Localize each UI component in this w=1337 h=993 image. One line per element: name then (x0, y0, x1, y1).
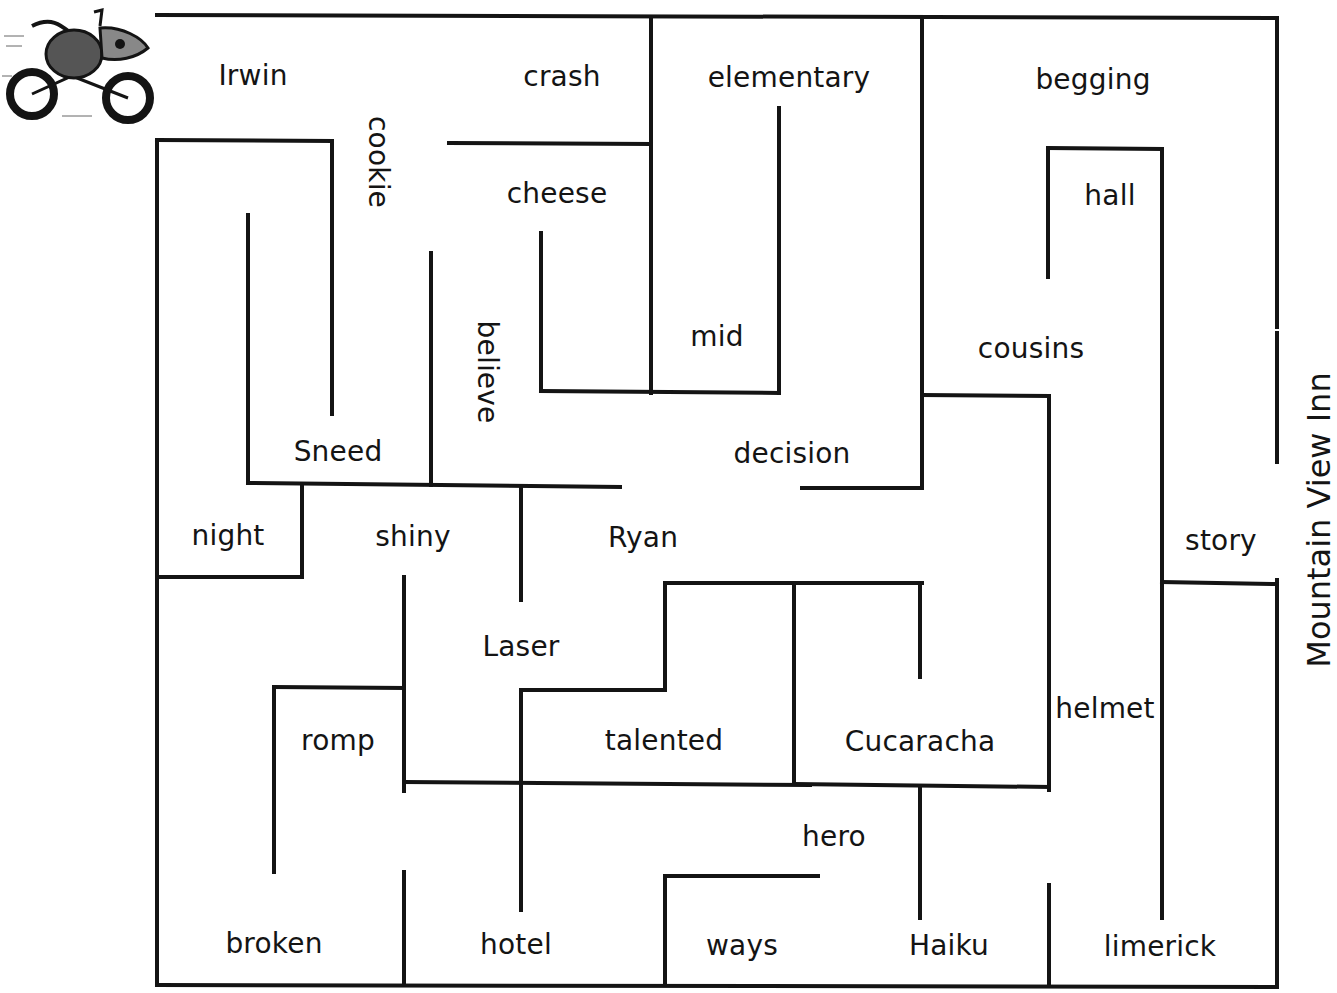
maze-wall (449, 143, 651, 144)
maze-word[interactable]: decision (733, 440, 850, 468)
maze-wall (541, 391, 779, 393)
maze-wall (922, 395, 1049, 396)
maze-wall (157, 140, 332, 141)
maze-word[interactable]: helmet (1055, 695, 1154, 723)
maze-word[interactable]: mid (690, 323, 743, 351)
maze-word[interactable]: Sneed (294, 438, 383, 466)
maze-word[interactable]: broken (225, 930, 322, 958)
maze-word[interactable]: Cucaracha (845, 728, 996, 756)
maze-word[interactable]: cousins (978, 335, 1084, 363)
maze-walls (0, 0, 1337, 993)
maze-word[interactable]: Irwin (218, 62, 287, 90)
maze-wall (1162, 582, 1277, 584)
maze-word[interactable]: talented (605, 727, 723, 755)
maze-wall (274, 687, 404, 688)
maze-word[interactable]: limerick (1104, 933, 1217, 961)
maze-word[interactable]: hero (802, 823, 866, 851)
maze-word[interactable]: Laser (482, 633, 559, 661)
maze-word[interactable]: Ryan (608, 524, 678, 552)
maze-wall (157, 985, 1277, 987)
maze-word[interactable]: romp (301, 727, 375, 755)
maze-word[interactable]: ways (706, 932, 778, 960)
maze-word[interactable]: story (1185, 527, 1257, 555)
maze-word[interactable]: cookie (364, 116, 392, 208)
maze-word[interactable]: hall (1084, 182, 1135, 210)
maze-wall (1048, 148, 1162, 149)
maze-word[interactable]: begging (1035, 66, 1150, 94)
maze-word[interactable]: night (191, 522, 264, 550)
maze-word[interactable]: crash (523, 63, 600, 91)
maze-word[interactable]: shiny (375, 523, 450, 551)
fish-motorcycle-icon (2, 6, 158, 124)
maze-word[interactable]: Haiku (909, 932, 989, 960)
maze-word[interactable]: cheese (507, 180, 608, 208)
maze-word[interactable]: elementary (708, 64, 871, 92)
maze-title: Mountain View Inn (1300, 372, 1337, 667)
maze-word[interactable]: believe (473, 321, 501, 424)
maze-word[interactable]: hotel (480, 931, 552, 959)
maze-wall (157, 15, 1277, 18)
maze-wall (404, 782, 810, 785)
